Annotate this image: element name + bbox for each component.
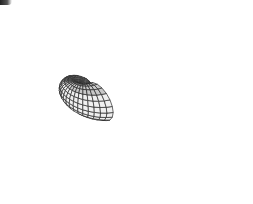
shell-surface-fills bbox=[59, 75, 113, 120]
shell-wireframe-figure bbox=[0, 0, 253, 204]
